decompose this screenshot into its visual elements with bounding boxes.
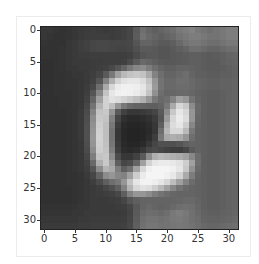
pixel	[232, 223, 238, 229]
y-tick	[37, 125, 41, 126]
x-tick-label: 15	[130, 234, 143, 244]
y-tick-label: 0	[30, 25, 36, 35]
y-tick	[37, 62, 41, 63]
y-tick	[37, 93, 41, 94]
y-tick-label: 10	[23, 88, 36, 98]
y-tick-label: 5	[30, 57, 36, 67]
x-tick-label: 0	[41, 234, 47, 244]
y-tick	[37, 188, 41, 189]
y-tick	[37, 156, 41, 157]
x-tick-label: 5	[72, 234, 78, 244]
y-tick-label: 20	[23, 151, 36, 161]
x-tick-label: 30	[222, 234, 235, 244]
y-tick	[37, 30, 41, 31]
x-tick-label: 20	[161, 234, 174, 244]
x-tick-label: 10	[99, 234, 112, 244]
y-tick-label: 15	[23, 120, 36, 130]
y-tick-label: 25	[23, 183, 36, 193]
grayscale-image	[41, 27, 238, 229]
y-tick	[37, 220, 41, 221]
x-tick-label: 25	[192, 234, 205, 244]
y-tick-label: 30	[23, 215, 36, 225]
